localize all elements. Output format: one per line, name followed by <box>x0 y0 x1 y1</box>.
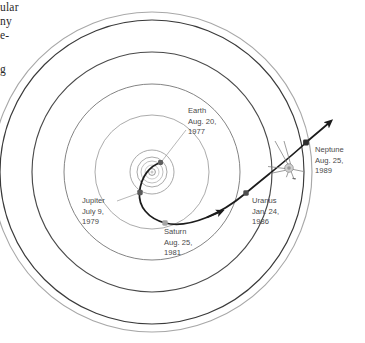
label-leader-lines <box>117 130 186 201</box>
voyager-trajectory-path <box>139 122 330 224</box>
uranus-marker <box>243 190 248 195</box>
label-uranus: UranusJan. 24,1986 <box>252 196 279 226</box>
jupiter-marker <box>137 190 142 195</box>
label-jupiter: JupiterJuly 9,1979 <box>82 196 105 226</box>
earth-marker <box>158 160 163 165</box>
label-earth: EarthAug. 20,1977 <box>188 106 216 136</box>
orbit-circles <box>0 12 312 332</box>
voyager-trajectory-diagram: EarthAug. 20,1977JupiterJuly 9,1979Satur… <box>0 0 365 343</box>
neptune-marker <box>303 140 309 146</box>
label-jupiter-leader <box>117 193 139 201</box>
planet-date-labels: EarthAug. 20,1977JupiterJuly 9,1979Satur… <box>82 106 344 257</box>
saturn-marker <box>162 220 167 225</box>
label-earth-leader <box>162 130 186 161</box>
figure-page: ular ny e- g <box>0 0 365 343</box>
pluto-orbit <box>0 12 312 332</box>
voyager-spacecraft-icon <box>268 141 303 180</box>
label-neptune: NeptuneAug. 25,1989 <box>315 145 344 175</box>
